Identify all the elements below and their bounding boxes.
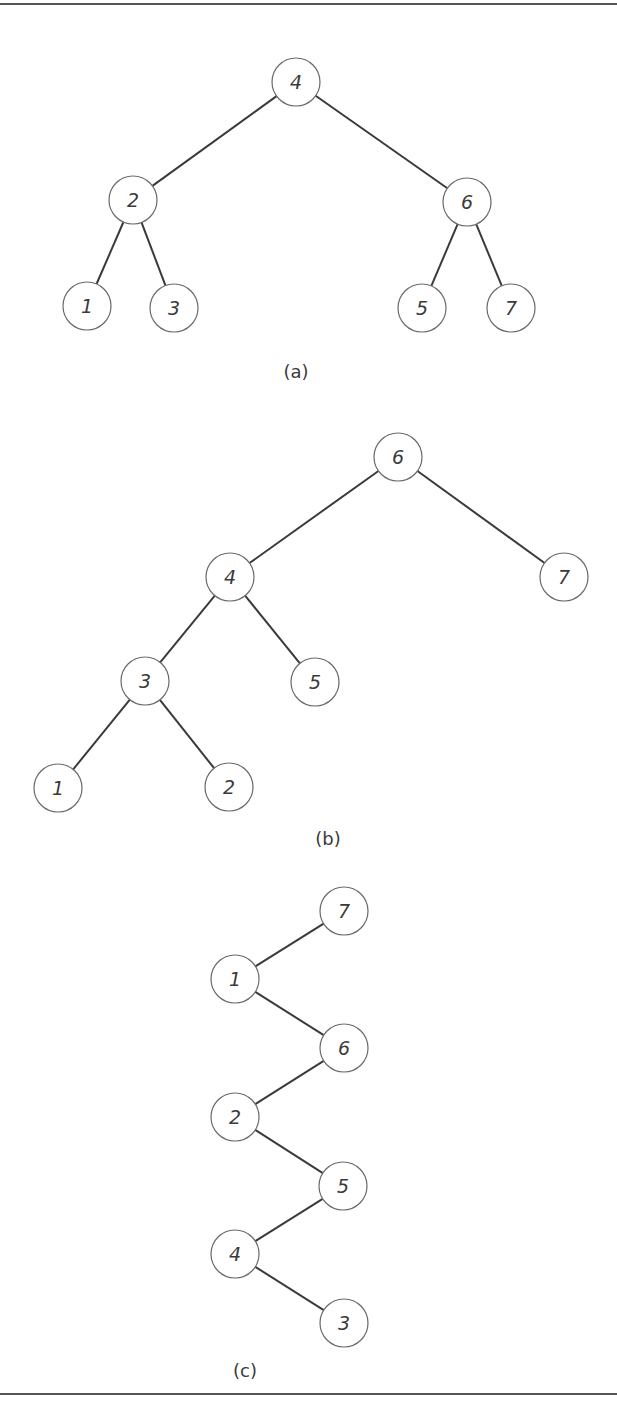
node-label: 3 xyxy=(139,670,151,692)
node-label: 6 xyxy=(461,191,473,213)
edge-2-1 xyxy=(97,222,124,284)
node-label: 7 xyxy=(558,566,570,588)
node-label: 3 xyxy=(338,1312,350,1334)
node-label: 5 xyxy=(416,297,428,319)
edge-4-3 xyxy=(255,1267,323,1310)
edge-6-2 xyxy=(255,1061,323,1104)
tree-b-nodes: 6473512 xyxy=(34,433,588,812)
node-label: 5 xyxy=(337,1175,349,1197)
tree-c-caption: (c) xyxy=(233,1360,257,1381)
tree-node-6: 6 xyxy=(443,178,491,226)
node-label: 2 xyxy=(127,189,139,211)
tree-node-7: 7 xyxy=(540,553,588,601)
edge-4-2 xyxy=(152,96,276,186)
tree-node-2: 2 xyxy=(211,1093,259,1141)
node-label: 4 xyxy=(229,1243,241,1265)
tree-node-1: 1 xyxy=(34,764,82,812)
edge-3-2 xyxy=(160,700,214,768)
edge-1-6 xyxy=(255,992,323,1035)
node-label: 4 xyxy=(224,566,236,588)
node-label: 7 xyxy=(338,900,350,922)
tree-c-nodes: 7162543 xyxy=(211,887,368,1347)
tree-node-2: 2 xyxy=(205,763,253,811)
node-label: 1 xyxy=(52,777,64,799)
edge-4-3 xyxy=(160,596,215,663)
tree-b-bst: 6473512 (b) xyxy=(34,433,588,849)
binary-tree-diagrams: 4261357 (a) 6473512 (b) 7162543 (c) xyxy=(0,0,617,1422)
tree-a-edges xyxy=(97,96,502,286)
edge-2-3 xyxy=(142,222,166,285)
tree-node-5: 5 xyxy=(398,284,446,332)
tree-node-1: 1 xyxy=(63,282,111,330)
tree-node-7: 7 xyxy=(487,284,535,332)
tree-node-5: 5 xyxy=(291,658,339,706)
tree-node-3: 3 xyxy=(320,1299,368,1347)
tree-a-caption: (a) xyxy=(283,361,308,382)
edge-3-1 xyxy=(73,700,130,770)
edge-7-1 xyxy=(255,924,323,967)
tree-a-nodes: 4261357 xyxy=(63,58,535,332)
node-label: 1 xyxy=(229,968,241,990)
tree-node-4: 4 xyxy=(206,553,254,601)
tree-node-5: 5 xyxy=(319,1162,367,1210)
node-label: 6 xyxy=(338,1037,350,1059)
edge-6-7 xyxy=(476,224,502,286)
edge-6-5 xyxy=(431,224,457,286)
tree-b-caption: (b) xyxy=(315,828,340,849)
edge-5-4 xyxy=(255,1199,322,1241)
tree-node-7: 7 xyxy=(320,887,368,935)
node-label: 2 xyxy=(223,776,235,798)
edge-4-5 xyxy=(245,596,300,664)
tree-node-2: 2 xyxy=(109,176,157,224)
tree-b-edges xyxy=(73,471,544,769)
tree-node-6: 6 xyxy=(320,1024,368,1072)
edge-4-6 xyxy=(316,96,448,188)
edge-6-4 xyxy=(250,471,379,563)
tree-node-3: 3 xyxy=(150,284,198,332)
node-label: 4 xyxy=(290,71,302,93)
edge-2-5 xyxy=(255,1130,323,1173)
node-label: 5 xyxy=(309,671,321,693)
node-label: 6 xyxy=(392,446,404,468)
node-label: 7 xyxy=(505,297,517,319)
node-label: 2 xyxy=(229,1106,241,1128)
tree-a-balanced-bst: 4261357 (a) xyxy=(63,58,535,382)
tree-node-6: 6 xyxy=(374,433,422,481)
tree-c-edges xyxy=(255,924,323,1310)
tree-node-1: 1 xyxy=(211,955,259,1003)
tree-node-4: 4 xyxy=(211,1230,259,1278)
node-label: 1 xyxy=(81,295,93,317)
tree-c-zigzag-bst: 7162543 (c) xyxy=(211,887,368,1381)
tree-node-3: 3 xyxy=(121,657,169,705)
edge-6-7 xyxy=(417,471,544,563)
node-label: 3 xyxy=(168,297,180,319)
tree-node-4: 4 xyxy=(272,58,320,106)
